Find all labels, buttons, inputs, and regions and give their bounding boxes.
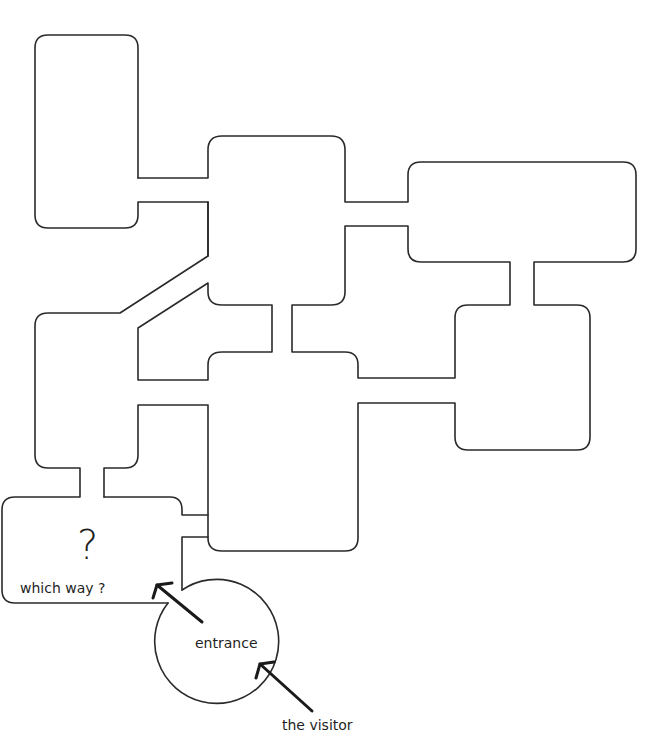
question-mark: ? [77, 522, 98, 568]
room-bottom-corridor [104, 405, 208, 537]
entrance-label: entrance [195, 635, 258, 651]
room-mid-left [2, 202, 208, 603]
arrow-visitor-icon [256, 662, 312, 711]
corridor-a [138, 136, 636, 590]
floor-plan [0, 0, 650, 752]
room-mid-center [138, 283, 272, 380]
room-entry-hall [104, 497, 208, 515]
visitor-label: the visitor [282, 717, 353, 733]
room-top-left [35, 35, 208, 256]
corridor-b [292, 226, 510, 378]
which-way-label: which way ? [20, 580, 105, 596]
